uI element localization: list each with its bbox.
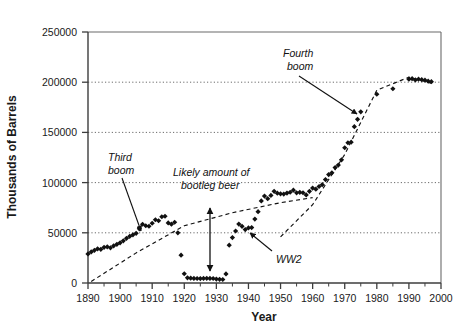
y-tick-label-100000: 100000 <box>42 177 77 189</box>
x-tick-label-1950: 1950 <box>269 292 293 304</box>
x-tick-label-1980: 1980 <box>365 292 389 304</box>
beer-production-chart: 250000 200000 150000 100000 50000 0 1890… <box>0 0 464 331</box>
x-axis-ticks <box>88 283 441 289</box>
y-tick-label-150000: 150000 <box>42 126 77 138</box>
x-axis-tick-labels: 1890190019101920193019401950196019701980… <box>76 292 453 304</box>
annotation-ww2-label: WW2 <box>276 253 302 265</box>
annotation-fourth-boom-line2: boom <box>287 60 314 72</box>
x-tick-label-1970: 1970 <box>333 292 357 304</box>
annotation-bootleg-beer-line1: Likely amount of <box>173 166 251 178</box>
y-tick-label-250000: 250000 <box>42 26 77 38</box>
x-tick-label-1900: 1900 <box>108 292 132 304</box>
x-tick-label-2000: 2000 <box>429 292 453 304</box>
x-tick-label-1960: 1960 <box>301 292 325 304</box>
x-tick-label-1940: 1940 <box>237 292 261 304</box>
y-tick-label-200000: 200000 <box>42 76 77 88</box>
x-tick-label-1990: 1990 <box>397 292 421 304</box>
x-tick-label-1910: 1910 <box>141 292 165 304</box>
x-tick-label-1930: 1930 <box>205 292 229 304</box>
annotation-third-boom-line2: boom <box>108 164 135 176</box>
x-axis-title: Year <box>251 310 277 324</box>
x-tick-label-1920: 1920 <box>173 292 197 304</box>
annotation-third-boom-line1: Third <box>108 151 133 163</box>
annotation-bootleg-beer-line2: bootleg beer <box>181 179 240 191</box>
y-tick-label-50000: 50000 <box>48 227 77 239</box>
chart-figure: 250000 200000 150000 100000 50000 0 1890… <box>0 0 464 331</box>
annotation-fourth-boom-line1: Fourth <box>283 47 314 59</box>
annotation-bootleg-beer: Likely amount of bootleg beer <box>173 166 251 191</box>
y-axis-title: Thousands of Barrels <box>5 95 19 219</box>
y-tick-label-0: 0 <box>71 277 77 289</box>
y-axis-ticks <box>82 32 88 283</box>
y-axis-tick-labels: 250000 200000 150000 100000 50000 0 <box>42 26 77 289</box>
x-tick-label-1890: 1890 <box>76 292 100 304</box>
